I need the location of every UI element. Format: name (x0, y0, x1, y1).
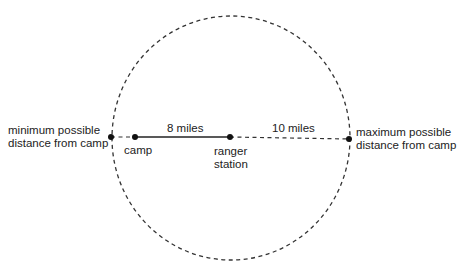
min-distance-line1: minimum possible (8, 124, 108, 137)
camp-label: camp (124, 144, 152, 157)
max-distance-line2: distance from camp (356, 139, 456, 152)
ranger-line2: station (214, 158, 248, 171)
max-distance-label: maximum possible distance from camp (356, 126, 456, 152)
dashed-ranger-to-max (230, 137, 349, 139)
segment-8-miles-label: 8 miles (167, 122, 203, 135)
min-distance-line2: distance from camp (8, 137, 108, 150)
segment-10-miles-label: 10 miles (272, 122, 315, 135)
ranger-station-label: ranger station (214, 145, 248, 171)
ranger-line1: ranger (214, 145, 248, 158)
min-distance-label: minimum possible distance from camp (8, 124, 108, 150)
camp-point (132, 134, 138, 140)
ranger-point (227, 134, 233, 140)
min-point (108, 134, 114, 140)
max-distance-line1: maximum possible (356, 126, 456, 139)
max-point (346, 136, 352, 142)
